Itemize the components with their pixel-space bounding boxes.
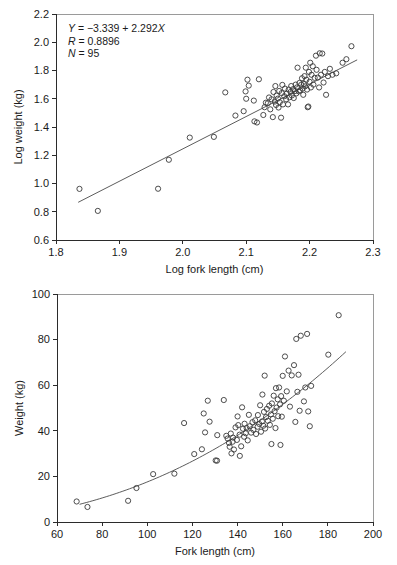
data-point-marker bbox=[255, 412, 260, 417]
data-point-marker bbox=[270, 115, 275, 120]
y-axis-tick-label: 2.2 bbox=[34, 8, 49, 20]
annotation-r-value: R = 0.8896 bbox=[68, 35, 120, 47]
plot-axes bbox=[56, 14, 373, 240]
plot-axes bbox=[57, 294, 373, 522]
data-point-marker bbox=[282, 354, 287, 359]
data-point-marker bbox=[314, 67, 319, 72]
data-point-marker bbox=[261, 409, 266, 414]
plot-frame bbox=[56, 14, 373, 240]
data-point-marker bbox=[260, 392, 265, 397]
data-point-marker bbox=[286, 368, 291, 373]
data-point-marker bbox=[215, 433, 220, 438]
data-point-marker bbox=[74, 499, 79, 504]
data-point-marker bbox=[293, 419, 298, 424]
y-axis-tick-label: 1.0 bbox=[34, 177, 49, 189]
x-axis-tick-label: 1.9 bbox=[112, 246, 127, 258]
data-point-marker bbox=[172, 471, 177, 476]
annotation-n-value: N = 95 bbox=[68, 47, 99, 59]
data-point-marker bbox=[280, 373, 285, 378]
y-axis-title: Log weight (kg) bbox=[12, 89, 24, 164]
data-point-marker bbox=[285, 102, 290, 107]
data-point-marker bbox=[262, 373, 267, 378]
log-log-scatter-svg: 0.60.81.01.21.41.61.82.02.21.81.92.02.12… bbox=[0, 0, 397, 283]
data-point-marker bbox=[280, 82, 285, 87]
x-axis-tick-label: 200 bbox=[364, 528, 382, 540]
x-axis-tick-label: 2.1 bbox=[239, 246, 254, 258]
data-point-marker bbox=[241, 109, 246, 114]
data-point-marker bbox=[349, 44, 354, 49]
x-axis-tick-label: 140 bbox=[228, 528, 246, 540]
data-point-marker bbox=[233, 113, 238, 118]
annotation-n-text: = 95 bbox=[76, 47, 100, 59]
data-point-marker bbox=[77, 186, 82, 191]
data-point-marker bbox=[327, 66, 332, 71]
y-axis-tick-label: 100 bbox=[32, 288, 50, 300]
data-point-marker bbox=[301, 92, 306, 97]
x-axis-tick-label: 160 bbox=[274, 528, 292, 540]
data-point-marker bbox=[296, 372, 301, 377]
data-point-marker bbox=[275, 397, 280, 402]
x-axis-tick-label: 80 bbox=[96, 528, 108, 540]
data-point-group bbox=[74, 313, 341, 510]
data-point-marker bbox=[308, 60, 313, 65]
chart-panel-length-weight: 0204060801006080100120140160180200Fork l… bbox=[0, 283, 397, 565]
x-axis-tick-label: 2.2 bbox=[302, 246, 317, 258]
data-point-marker bbox=[199, 447, 204, 452]
data-point-marker bbox=[246, 83, 251, 88]
data-point-marker bbox=[270, 416, 275, 421]
data-point-marker bbox=[151, 472, 156, 477]
data-point-marker bbox=[166, 157, 171, 162]
regression-fit-line bbox=[78, 60, 357, 202]
data-point-marker bbox=[253, 431, 258, 436]
data-point-marker bbox=[269, 441, 274, 446]
x-axis-tick-label: 1.8 bbox=[48, 246, 63, 258]
data-point-marker bbox=[239, 444, 244, 449]
regression-annotation: Y = −3.339 + 2.292XR = 0.8896N = 95 bbox=[68, 22, 166, 59]
data-point-marker bbox=[326, 352, 331, 357]
y-axis-tick-label: 1.6 bbox=[34, 93, 49, 105]
data-point-marker bbox=[278, 115, 283, 120]
x-axis-tick-label: 120 bbox=[183, 528, 201, 540]
data-point-marker bbox=[256, 77, 261, 82]
data-point-marker bbox=[95, 208, 100, 213]
x-axis-tick-label: 100 bbox=[138, 528, 156, 540]
data-point-marker bbox=[267, 422, 272, 427]
data-point-marker bbox=[306, 409, 311, 414]
data-point-marker bbox=[303, 385, 308, 390]
data-point-marker bbox=[245, 77, 250, 82]
data-point-marker bbox=[231, 447, 236, 452]
data-point-marker bbox=[317, 85, 322, 90]
x-axis-tick-label: 60 bbox=[51, 528, 63, 540]
data-point-marker bbox=[284, 389, 289, 394]
y-axis-tick-label: 0 bbox=[44, 516, 50, 528]
data-point-marker bbox=[278, 442, 283, 447]
data-point-marker bbox=[202, 430, 207, 435]
data-point-marker bbox=[205, 398, 210, 403]
x-axis-title: Fork length (cm) bbox=[175, 545, 255, 557]
data-point-marker bbox=[301, 399, 306, 404]
data-point-marker bbox=[281, 398, 286, 403]
data-point-marker bbox=[223, 90, 228, 95]
data-point-marker bbox=[287, 404, 292, 409]
y-axis-tick-label: 0.8 bbox=[34, 206, 49, 218]
data-point-marker bbox=[321, 80, 326, 85]
plot-frame bbox=[57, 294, 373, 522]
data-point-marker bbox=[268, 107, 273, 112]
data-point-marker bbox=[207, 419, 212, 424]
data-point-marker bbox=[211, 134, 216, 139]
annotation-equation: Y = −3.339 + 2.292X bbox=[68, 22, 166, 34]
x-axis-title: Log fork length (cm) bbox=[166, 263, 264, 275]
data-point-marker bbox=[187, 135, 192, 140]
annotation-r-text: = 0.8896 bbox=[76, 35, 120, 47]
y-axis-tick-label: 1.8 bbox=[34, 64, 49, 76]
data-point-marker bbox=[201, 411, 206, 416]
x-axis-tick-label: 180 bbox=[319, 528, 337, 540]
y-axis-title: Weight (kg) bbox=[13, 380, 25, 436]
data-point-marker bbox=[323, 92, 328, 97]
y-axis-tick-label: 80 bbox=[38, 333, 50, 345]
y-axis-tick-label: 60 bbox=[38, 379, 50, 391]
data-point-marker bbox=[261, 112, 266, 117]
data-point-marker bbox=[85, 504, 90, 509]
data-point-marker bbox=[239, 405, 244, 410]
data-point-group bbox=[77, 44, 354, 214]
